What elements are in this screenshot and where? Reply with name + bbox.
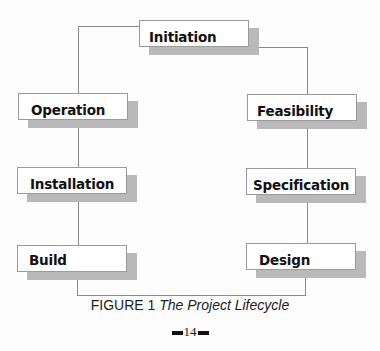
node-label: Initiation	[149, 29, 216, 45]
node-label: Build	[29, 252, 67, 268]
node-label: Operation	[31, 102, 105, 118]
connector-design-build-bottom	[77, 295, 306, 296]
connector-specification-design	[307, 203, 308, 243]
node-label: Design	[259, 252, 310, 268]
page-number: 14	[184, 324, 197, 339]
connector-build-bottom	[77, 280, 78, 296]
figure-number: FIGURE 1	[91, 297, 156, 313]
connector-initiation-feasibility-top	[258, 47, 307, 48]
connector-operation-installation	[78, 128, 79, 167]
connector-feasibility-specification	[307, 129, 308, 168]
page-bar-left	[172, 331, 183, 335]
node-label: Installation	[30, 176, 114, 192]
node-design: Design	[246, 243, 356, 270]
connector-initiation-feasibility-right	[307, 47, 308, 94]
node-operation: Operation	[18, 93, 128, 120]
node-label: Feasibility	[257, 103, 333, 119]
connector-operation-initiation-left	[78, 26, 79, 93]
node-build: Build	[17, 245, 127, 272]
page-number-footer: 14	[0, 324, 380, 340]
node-installation: Installation	[17, 167, 127, 194]
connector-design-bottom	[305, 278, 306, 296]
node-label: Specification	[253, 177, 349, 193]
node-feasibility: Feasibility	[247, 94, 357, 121]
node-specification: Specification	[246, 168, 356, 195]
figure-title: The Project Lifecycle	[159, 297, 289, 313]
connector-installation-build	[78, 202, 79, 245]
page-bar-right	[198, 331, 209, 335]
figure-caption: FIGURE 1 The Project Lifecycle	[0, 297, 380, 313]
node-initiation: Initiation	[139, 20, 249, 47]
connector-operation-initiation-top	[78, 26, 139, 27]
